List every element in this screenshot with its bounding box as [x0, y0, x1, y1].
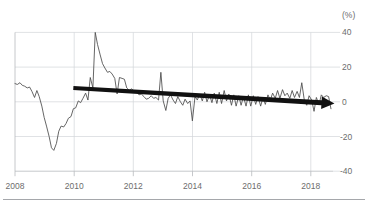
y-tickmarks [333, 32, 340, 171]
y-tick-label-0: 0 [342, 97, 347, 107]
x-tick-label-2016: 2016 [242, 181, 261, 191]
y-tick-label-minus-20: -20 [340, 132, 353, 142]
downward-trend-arrow [73, 86, 334, 109]
chart-figure: (%) 40 20 0 -20 -40 2008 2010 2012 2014 … [0, 0, 368, 207]
x-tick-label-2018: 2018 [301, 181, 320, 191]
y-tick-label-minus-40: -40 [340, 166, 353, 176]
x-tick-labels: 2008 2010 2012 2014 2016 2018 [6, 181, 321, 191]
data-series-line [15, 32, 331, 150]
x-tick-label-2012: 2012 [124, 181, 143, 191]
y-tick-labels: 40 20 0 -20 -40 [340, 27, 353, 176]
x-tick-label-2014: 2014 [183, 181, 202, 191]
x-tick-label-2008: 2008 [6, 181, 25, 191]
x-tickmarks [15, 171, 311, 176]
y-tick-label-20: 20 [342, 62, 352, 72]
y-tick-label-40: 40 [342, 27, 352, 37]
y-axis-unit-label: (%) [342, 10, 355, 20]
gridlines [15, 32, 333, 136]
x-tick-label-2010: 2010 [65, 181, 84, 191]
line-chart: (%) 40 20 0 -20 -40 2008 2010 2012 2014 … [0, 0, 368, 207]
